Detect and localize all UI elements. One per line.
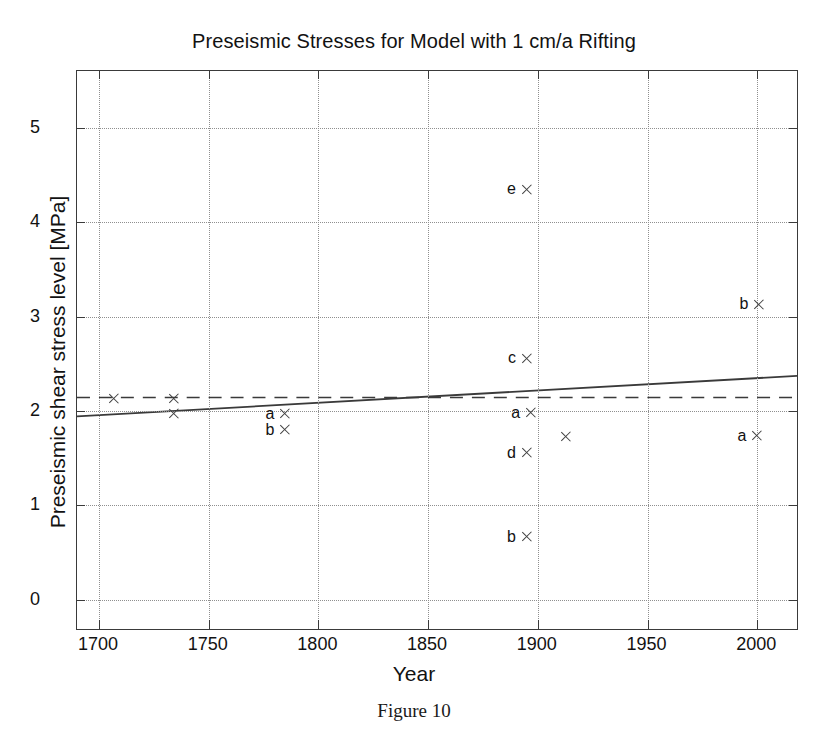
data-point-marker	[525, 406, 538, 419]
x-axis-tick-label: 1850	[387, 634, 467, 655]
data-point-marker	[167, 392, 180, 405]
x-axis-tick	[318, 620, 319, 629]
x-axis-tick	[648, 620, 649, 629]
data-point-marker	[560, 430, 573, 443]
y-axis-tick-label: 1	[0, 494, 40, 515]
data-point-marker	[279, 407, 292, 420]
data-point-label: c	[508, 349, 516, 367]
y-axis-tick	[77, 128, 85, 129]
data-point-label: a	[737, 427, 746, 445]
x-axis-tick	[318, 71, 319, 79]
gridline-horizontal	[77, 600, 797, 601]
x-axis-tick-label: 1750	[168, 634, 248, 655]
y-axis-tick	[77, 411, 85, 412]
y-axis-tick	[77, 505, 85, 506]
data-point-marker	[753, 298, 766, 311]
x-axis-tick	[209, 620, 210, 629]
data-point-label: d	[507, 444, 516, 462]
series-lines-layer	[77, 71, 797, 629]
data-point-label: a	[511, 404, 520, 422]
y-axis-tick	[789, 317, 797, 318]
plot-area: abecadbba	[76, 70, 798, 630]
x-axis-tick	[209, 71, 210, 79]
x-axis-tick	[648, 71, 649, 79]
data-point-marker	[520, 446, 533, 459]
y-axis-tick-label: 3	[0, 305, 40, 326]
x-axis-tick	[428, 71, 429, 79]
plot-inner: abecadbba	[77, 71, 797, 629]
y-axis-tick	[789, 128, 797, 129]
gridline-vertical	[538, 71, 539, 629]
gridline-vertical	[209, 71, 210, 629]
y-axis-tick	[789, 411, 797, 412]
gridline-horizontal	[77, 411, 797, 412]
y-axis-tick-label: 4	[0, 211, 40, 232]
data-point-label: b	[740, 295, 749, 313]
x-axis-tick-label: 1900	[497, 634, 577, 655]
y-axis-tick-label: 5	[0, 116, 40, 137]
y-axis-tick-label: 0	[0, 588, 40, 609]
gridline-vertical	[757, 71, 758, 629]
x-axis-tick	[428, 620, 429, 629]
y-axis-title: Preseismic shear stress level [MPa]	[46, 82, 70, 642]
x-axis-tick-label: 2000	[716, 634, 796, 655]
gridline-horizontal	[77, 222, 797, 223]
gridline-horizontal	[77, 505, 797, 506]
chart-title: Preseismic Stresses for Model with 1 cm/…	[0, 30, 828, 53]
data-point-label: b	[507, 528, 516, 546]
data-point-marker	[751, 429, 764, 442]
y-axis-tick	[77, 600, 85, 601]
figure-caption: Figure 10	[0, 700, 828, 722]
y-axis-tick	[789, 222, 797, 223]
data-point-marker	[167, 407, 180, 420]
x-axis-tick	[757, 71, 758, 79]
data-point-marker	[520, 530, 533, 543]
y-axis-tick	[789, 600, 797, 601]
figure-container: Preseismic Stresses for Model with 1 cm/…	[0, 0, 828, 735]
data-point-label: e	[507, 180, 516, 198]
data-point-marker	[520, 183, 533, 196]
y-axis-tick-label: 2	[0, 399, 40, 420]
x-axis-tick-label: 1950	[607, 634, 687, 655]
gridline-vertical	[428, 71, 429, 629]
x-axis-tick-label: 1800	[277, 634, 357, 655]
y-axis-tick	[77, 317, 85, 318]
data-point-marker	[108, 392, 121, 405]
x-axis-tick	[538, 620, 539, 629]
gridline-horizontal	[77, 128, 797, 129]
gridline-vertical	[99, 71, 100, 629]
data-point-marker	[279, 423, 292, 436]
x-axis-tick	[99, 620, 100, 629]
gridline-vertical	[648, 71, 649, 629]
x-axis-tick	[538, 71, 539, 79]
gridline-vertical	[318, 71, 319, 629]
y-axis-tick	[789, 505, 797, 506]
x-axis-tick	[757, 620, 758, 629]
data-point-label: b	[266, 421, 275, 439]
y-axis-tick	[77, 222, 85, 223]
x-axis-title: Year	[0, 662, 828, 686]
data-point-marker	[520, 352, 533, 365]
gridline-horizontal	[77, 317, 797, 318]
x-axis-tick	[99, 71, 100, 79]
